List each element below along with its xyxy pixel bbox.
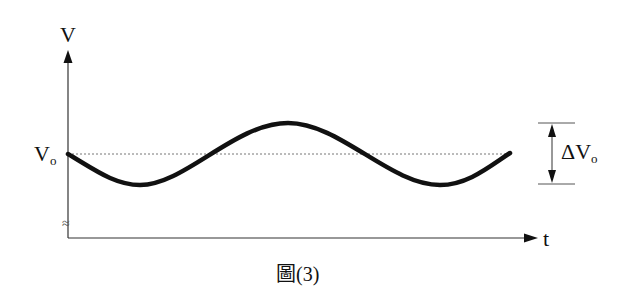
- delta-v-main: ΔV: [561, 139, 591, 164]
- figure-canvas: [0, 0, 624, 304]
- axis-break-symbol: ≈: [62, 217, 70, 231]
- x-axis-arrow-icon: [524, 234, 538, 243]
- figure-caption: 圖(3): [276, 264, 319, 284]
- delta-v-subscript: o: [591, 151, 598, 166]
- amplitude-down-arrow-icon: [548, 170, 556, 183]
- vo-baseline-label: Vo: [34, 143, 56, 165]
- y-axis-arrow-icon: [64, 50, 73, 63]
- delta-vo-label: ΔVo: [561, 141, 598, 163]
- amplitude-up-arrow-icon: [548, 124, 556, 137]
- vo-main: V: [34, 141, 50, 166]
- y-axis-label: V: [60, 24, 76, 46]
- vo-subscript: o: [50, 153, 57, 168]
- x-axis-label: t: [543, 228, 549, 250]
